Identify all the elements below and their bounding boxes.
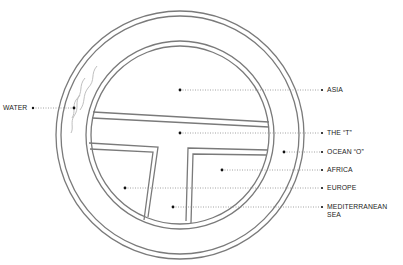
label-asia: ASIA [327,86,343,94]
t-crossbar [92,112,269,127]
t-stem-left [89,143,158,220]
dot-the-t [179,132,182,135]
dot-europe-label [321,187,323,189]
dot-water-label [32,107,34,109]
dot-water [73,107,76,110]
dot-asia [179,89,182,92]
t-stem-right [186,148,268,223]
dot-ocean-label [321,151,323,153]
leader-lines [33,90,320,207]
outer-ring-outer-edge [56,11,304,259]
dot-europe [124,187,127,190]
dot-the-t-label [321,132,323,134]
marker-dots [32,89,323,209]
dot-ocean [283,151,286,154]
dot-africa-label [321,169,323,171]
dot-mediterranean-label [321,206,323,208]
dot-asia-label [321,89,323,91]
inner-ring-inner-edge [91,46,269,224]
label-mediterranean-line2: SEA [327,211,387,219]
inner-ring-outer-edge [86,41,274,229]
outer-ring-inner-edge [61,16,299,254]
label-europe: EUROPE [327,184,356,192]
label-the-t: THE “T” [327,129,352,137]
dot-mediterranean [172,206,175,209]
label-mediterranean-line1: MEDITERRANEAN [327,203,387,211]
label-ocean-o: OCEAN “O” [327,148,364,156]
label-water: WATER [3,104,27,112]
dot-africa [221,169,224,172]
label-mediterranean: MEDITERRANEAN SEA [327,203,387,219]
label-africa: AFRICA [327,166,353,174]
